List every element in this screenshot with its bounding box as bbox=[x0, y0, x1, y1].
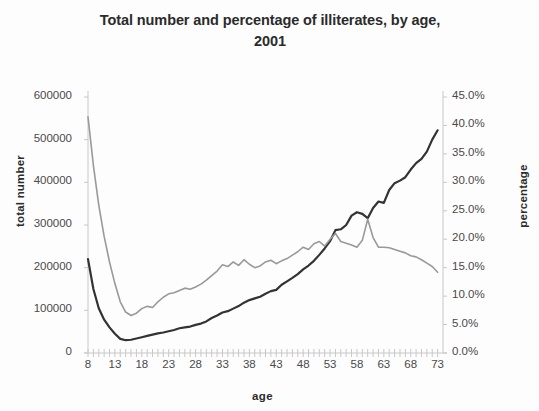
x-axis-tick-label: 8 bbox=[73, 358, 103, 370]
y-axis-right-tick-label: 25.0% bbox=[452, 203, 512, 215]
y-axis-right-tick-label: 15.0% bbox=[452, 260, 512, 272]
chart-figure: Total number and percentage of illiterat… bbox=[0, 0, 539, 411]
y-axis-right-tick-label: 35.0% bbox=[452, 146, 512, 158]
y-axis-right-tick-label: 0.0% bbox=[452, 345, 512, 357]
series-line-percentage bbox=[88, 117, 438, 316]
y-axis-right-tick-label: 5.0% bbox=[452, 317, 512, 329]
x-axis-tick-label: 53 bbox=[315, 358, 345, 370]
y-axis-right-tick-label: 20.0% bbox=[452, 231, 512, 243]
y-axis-left-tick-label: 100000 bbox=[10, 302, 72, 314]
y-axis-left-tick-label: 200000 bbox=[10, 260, 72, 272]
x-axis-tick-label: 73 bbox=[423, 358, 453, 370]
x-axis-tick-label: 23 bbox=[154, 358, 184, 370]
x-axis-tick-label: 28 bbox=[181, 358, 211, 370]
series-group bbox=[88, 117, 438, 340]
x-axis-tick-label: 48 bbox=[288, 358, 318, 370]
axes-group bbox=[84, 91, 447, 357]
x-axis-tick-label: 63 bbox=[369, 358, 399, 370]
y-axis-left-title: total number bbox=[14, 141, 26, 241]
x-axis-tick-label: 68 bbox=[396, 358, 426, 370]
y-axis-left-tick-label: 0 bbox=[10, 345, 72, 357]
x-axis-tick-label: 38 bbox=[234, 358, 264, 370]
y-axis-left-tick-label: 600000 bbox=[10, 89, 72, 101]
x-axis-tick-label: 13 bbox=[100, 358, 130, 370]
y-axis-right-tick-label: 10.0% bbox=[452, 288, 512, 300]
y-axis-right-tick-label: 40.0% bbox=[452, 117, 512, 129]
x-axis-tick-label: 58 bbox=[342, 358, 372, 370]
x-axis-tick-label: 18 bbox=[127, 358, 157, 370]
y-axis-right-tick-label: 45.0% bbox=[452, 89, 512, 101]
y-axis-right-tick-label: 30.0% bbox=[452, 174, 512, 186]
y-axis-right-title: percentage bbox=[517, 141, 529, 251]
plot-area: 6000005000004000003000002000001000000 45… bbox=[0, 0, 539, 411]
x-axis-title: age bbox=[80, 390, 445, 402]
series-line-total-number bbox=[88, 130, 438, 340]
x-axis-tick-label: 43 bbox=[261, 358, 291, 370]
x-axis-tick-label: 33 bbox=[207, 358, 237, 370]
